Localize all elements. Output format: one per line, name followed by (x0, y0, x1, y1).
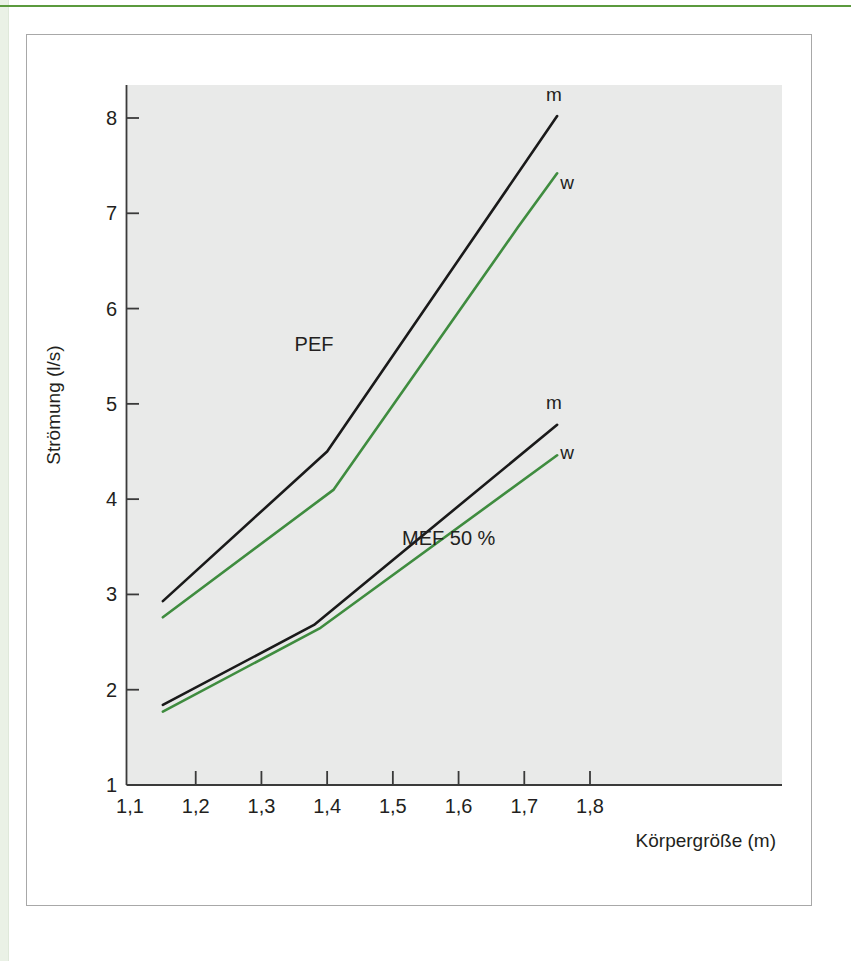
y-axis-title: Strömung (l/s) (43, 345, 64, 464)
chart-canvas: 123456781,11,21,31,41,51,61,71,8Strömung… (0, 0, 851, 961)
series-label: m (546, 392, 562, 413)
y-axis-tick-label: 4 (106, 488, 117, 510)
x-axis-tick-label: 1,1 (116, 795, 144, 817)
series-line (163, 116, 557, 601)
x-axis-tick-label: 1,7 (510, 795, 538, 817)
x-axis-tick-label: 1,2 (182, 795, 210, 817)
x-axis-tick-label: 1,4 (313, 795, 341, 817)
page-root: 123456781,11,21,31,41,51,61,71,8Strömung… (0, 0, 851, 961)
series-label: w (559, 172, 574, 193)
y-axis-tick-label: 3 (106, 583, 117, 605)
series-line (163, 173, 557, 617)
series-label: w (559, 442, 574, 463)
y-axis-tick-label: 5 (106, 393, 117, 415)
chart-figure: 123456781,11,21,31,41,51,61,71,8Strömung… (0, 0, 851, 961)
x-axis-tick-label: 1,8 (576, 795, 604, 817)
y-axis-tick-label: 8 (106, 107, 117, 129)
y-axis-tick-label: 6 (106, 298, 117, 320)
x-axis-title: Körpergröße (m) (636, 830, 776, 851)
x-axis-tick-label: 1,3 (248, 795, 276, 817)
y-axis-tick-label: 7 (106, 202, 117, 224)
series-label: m (546, 84, 562, 105)
x-axis-tick-label: 1,6 (445, 795, 473, 817)
x-axis-tick-label: 1,5 (379, 795, 407, 817)
chart-annotation: PEF (295, 333, 334, 355)
series-line (163, 425, 557, 705)
y-axis-tick-label: 2 (106, 679, 117, 701)
chart-annotation: MEF 50 % (402, 527, 496, 549)
y-axis-tick-label: 1 (106, 774, 117, 796)
